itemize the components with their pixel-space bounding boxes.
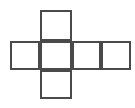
square-bottom: [41, 71, 71, 98]
square-middle-left: [11, 42, 39, 69]
square-middle-end: [102, 42, 130, 69]
square-middle-inner: [41, 42, 71, 69]
cube-net-diagram: [0, 0, 135, 108]
square-middle-right: [73, 42, 100, 69]
square-top: [41, 11, 71, 40]
cube-net-figure: [0, 0, 135, 108]
